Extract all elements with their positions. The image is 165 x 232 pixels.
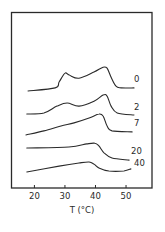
series-label-2: 2 [134, 102, 139, 112]
series-label-0: 0 [134, 74, 139, 84]
curve-40 [27, 162, 131, 172]
x-tick-labels: 20304050 [29, 191, 131, 201]
curve-0 [28, 67, 134, 91]
series-label-20: 20 [131, 146, 142, 156]
chart: 20304050 0272040 T (°C) [0, 0, 165, 232]
x-tick-label: 30 [60, 191, 71, 201]
plot-frame [12, 13, 153, 189]
curve-7 [26, 114, 132, 135]
curve-2 [27, 94, 134, 115]
curve-20 [27, 143, 129, 160]
series-label-40: 40 [134, 158, 145, 168]
series-label-7: 7 [134, 118, 139, 128]
curves [26, 67, 134, 172]
x-axis-label: T (°C) [69, 205, 95, 215]
x-tick-label: 50 [121, 191, 132, 201]
x-tick-label: 40 [90, 191, 101, 201]
x-tick-label: 20 [29, 191, 40, 201]
